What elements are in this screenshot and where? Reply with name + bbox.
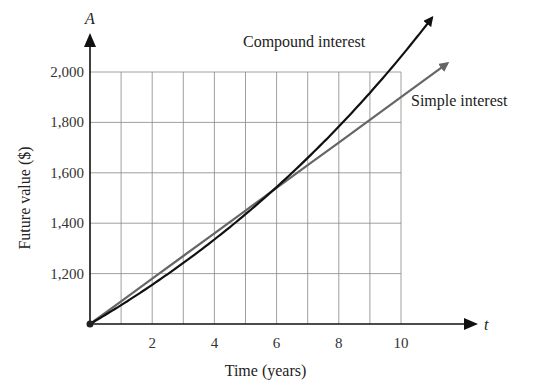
x-axis-label: Time (years) (225, 362, 307, 380)
y-axis-letter: A (84, 10, 95, 27)
origin-point (87, 321, 94, 328)
y-tick-label: 1,400 (50, 215, 84, 231)
y-tick-label: 2,000 (50, 64, 84, 80)
y-tick-label: 1,600 (50, 165, 84, 181)
y-tick-label: 1,200 (50, 266, 84, 282)
compound-interest-line (90, 18, 432, 324)
x-tick-label: 8 (335, 335, 343, 351)
chart: At2468101,2001,4001,6001,8002,000Time (y… (0, 0, 542, 387)
x-axis-letter: t (484, 316, 489, 333)
x-tick-label: 4 (211, 335, 219, 351)
simple-interest-label: Simple interest (411, 92, 508, 110)
y-axis-label: Future value ($) (16, 146, 34, 249)
x-tick-label: 6 (273, 335, 281, 351)
x-tick-label: 2 (148, 335, 156, 351)
y-tick-label: 1,800 (50, 114, 84, 130)
compound-interest-label: Compound interest (243, 33, 366, 51)
x-tick-label: 10 (394, 335, 409, 351)
